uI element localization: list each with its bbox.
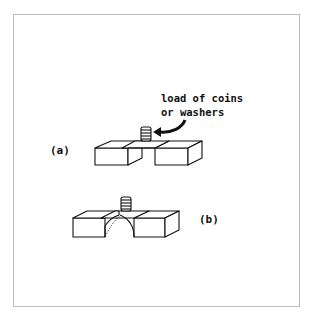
curved-arrow-icon: [153, 120, 185, 137]
annotation-line-2: or washers: [161, 106, 224, 118]
coin-stack-icon: [141, 127, 151, 141]
diagram-canvas: [0, 0, 319, 320]
panel-a-illustration: [95, 120, 202, 165]
panel-a-label: (a): [50, 144, 70, 157]
panel-b-label: (b): [199, 213, 219, 226]
panel-b-illustration: [73, 197, 179, 237]
coin-stack-icon: [121, 197, 131, 211]
annotation-line-1: load of coins: [161, 92, 243, 104]
